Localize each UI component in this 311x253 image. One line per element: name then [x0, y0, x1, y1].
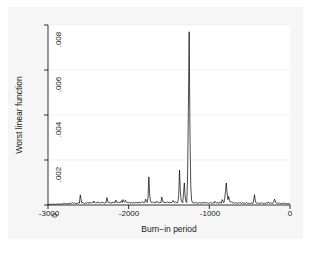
y-tick-label-2: .004 — [54, 116, 63, 144]
x-tick-label-1: -2000 — [114, 209, 144, 218]
data-series-line — [48, 32, 290, 205]
y-tick-marks — [44, 25, 48, 205]
x-tick-label-2: -1000 — [195, 209, 225, 218]
x-axis-title: Burn−in period — [48, 224, 290, 234]
y-tick-label-0: .008 — [54, 26, 63, 54]
x-tick-label-3: 0 — [281, 209, 299, 218]
y-tick-label-1: .006 — [54, 71, 63, 99]
x-tick-label-0: -3000 — [34, 209, 64, 218]
y-tick-label-3: .002 — [54, 161, 63, 189]
x-tick-marks — [48, 205, 290, 209]
y-axis-title: Worst linear function — [14, 50, 24, 180]
chart-screenshot: .008 .006 .004 .002 0 -3000 -2000 -1000 … — [0, 0, 311, 253]
gridlines — [48, 25, 290, 160]
